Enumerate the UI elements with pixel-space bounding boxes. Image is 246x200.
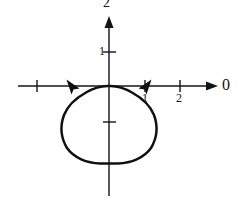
plot-canvas bbox=[0, 0, 246, 200]
cardioid-figure: 0 1 2 1 2 bbox=[0, 0, 246, 200]
curve-direction-arrow-left-icon bbox=[67, 80, 80, 95]
y-axis-top-label: 2 bbox=[103, 0, 110, 10]
theta-axis-label: 0 bbox=[222, 77, 230, 93]
y-axis-tick-label-1: 1 bbox=[99, 45, 105, 57]
x-axis-tick-label-2: 2 bbox=[176, 92, 182, 104]
y-axis-arrow-icon bbox=[105, 16, 114, 28]
x-axis-arrow-icon bbox=[206, 82, 218, 91]
x-axis-tick-label-1: 1 bbox=[142, 92, 148, 104]
